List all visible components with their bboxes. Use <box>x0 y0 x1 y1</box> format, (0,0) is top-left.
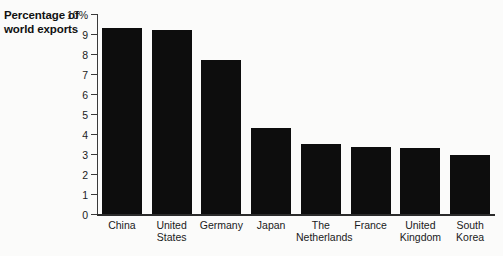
x-axis-category-label-line: Japan <box>246 219 296 231</box>
x-axis-category-label-line: France <box>346 219 396 231</box>
x-axis-category-label-line: China <box>97 219 147 231</box>
bar <box>152 30 192 214</box>
bar-chart: Percentage of world exports 012345678910… <box>0 0 503 256</box>
x-axis-category-label: TheNetherlands <box>296 219 346 243</box>
x-axis-category-labels: ChinaUnitedStatesGermanyJapanTheNetherla… <box>97 219 495 253</box>
y-axis-tick-label: 9 <box>82 29 88 40</box>
x-axis-category-label: Japan <box>246 219 296 231</box>
x-axis-category-label-line: The <box>296 219 346 231</box>
bar <box>201 60 241 214</box>
y-axis-tick-label: 8 <box>82 49 88 60</box>
bar <box>102 28 142 214</box>
x-axis-category-label-line: States <box>147 231 197 243</box>
bar-series <box>97 14 495 215</box>
y-axis-title-line-2: world exports <box>4 23 82 37</box>
plot-area: 012345678910% <box>97 14 495 215</box>
x-axis-category-label-line: Netherlands <box>296 231 346 243</box>
y-axis-tick-label: 7 <box>82 69 88 80</box>
y-axis-tick-label: 5 <box>82 109 88 120</box>
x-axis-category-label: UnitedStates <box>147 219 197 243</box>
x-axis-category-label: SouthKorea <box>445 219 495 243</box>
y-axis-tick-label: 6 <box>82 89 88 100</box>
y-axis-tick-label: 0 <box>82 209 88 220</box>
x-axis-category-label: Germany <box>197 219 247 231</box>
x-axis-category-label-line: United <box>147 219 197 231</box>
x-axis-category-label: France <box>346 219 396 231</box>
bar <box>450 155 490 214</box>
y-axis-tick-label: 1 <box>82 189 88 200</box>
x-axis-category-label-line: Korea <box>445 231 495 243</box>
x-axis-category-label: UnitedKingdom <box>396 219 446 243</box>
x-axis-category-label-line: South <box>445 219 495 231</box>
x-axis-category-label-line: Germany <box>197 219 247 231</box>
y-axis-tick-label: 10% <box>67 9 88 20</box>
y-axis-tick-label: 4 <box>82 129 88 140</box>
bar <box>400 148 440 214</box>
y-axis-tick-label: 3 <box>82 149 88 160</box>
x-axis-category-label-line: Kingdom <box>396 231 446 243</box>
bar <box>351 147 391 214</box>
x-axis-category-label: China <box>97 219 147 231</box>
bar <box>251 128 291 214</box>
y-axis-tick-label: 2 <box>82 169 88 180</box>
x-axis-category-label-line: United <box>396 219 446 231</box>
bar <box>301 144 341 214</box>
